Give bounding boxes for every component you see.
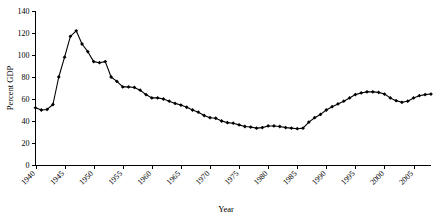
y-tick-label: 100 [18, 51, 30, 60]
x-axis-title: Year [218, 204, 234, 214]
y-tick-label: 40 [22, 117, 30, 126]
y-tick-label: 80 [22, 73, 30, 82]
y-tick-label: 140 [18, 7, 30, 16]
y-axis-title: Percent GDP [5, 65, 15, 110]
y-tick-label: 120 [18, 29, 30, 38]
y-tick-label: 0 [26, 161, 30, 170]
line-chart: 020406080100120140 194019451950195519601… [0, 0, 440, 222]
chart-background [0, 0, 440, 222]
y-tick-label: 20 [22, 139, 30, 148]
y-tick-label: 60 [22, 95, 30, 104]
chart-container: 020406080100120140 194019451950195519601… [0, 0, 440, 222]
